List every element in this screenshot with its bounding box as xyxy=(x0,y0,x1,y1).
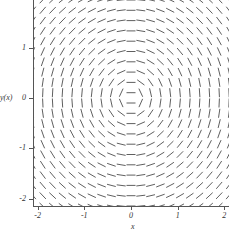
field-segment xyxy=(146,153,154,156)
field-segment xyxy=(49,182,55,188)
field-segment xyxy=(227,140,229,148)
field-segment xyxy=(69,193,76,198)
field-segment xyxy=(78,18,85,23)
x-tick-label: -1 xyxy=(75,211,93,220)
field-segment xyxy=(51,47,55,55)
field-segment xyxy=(216,0,222,3)
field-segment xyxy=(199,88,200,97)
field-segment xyxy=(41,37,45,45)
field-segment xyxy=(99,69,104,76)
field-segment xyxy=(88,8,96,12)
field-segment xyxy=(81,109,83,118)
field-segment xyxy=(177,28,184,34)
field-segment xyxy=(117,50,126,52)
field-segment xyxy=(108,131,116,136)
field-segment xyxy=(197,151,202,158)
field-segment xyxy=(217,140,221,148)
field-segment xyxy=(72,88,73,97)
field-segment xyxy=(208,58,211,66)
field-segment xyxy=(40,172,45,179)
field-segment xyxy=(197,27,203,34)
field-segment xyxy=(226,171,229,178)
field-segment xyxy=(60,48,65,56)
field-segment xyxy=(187,38,193,45)
field-segment xyxy=(88,152,95,158)
field-segment xyxy=(227,47,229,55)
field-segment xyxy=(219,109,220,118)
field-segment xyxy=(41,47,45,55)
field-segment xyxy=(98,152,106,157)
field-segment xyxy=(216,192,222,199)
field-segment xyxy=(61,58,65,66)
field-segment xyxy=(137,122,145,126)
field-segment xyxy=(90,78,93,87)
field-segment xyxy=(136,164,145,166)
field-segment xyxy=(107,19,116,22)
field-segment xyxy=(179,109,181,118)
field-segment xyxy=(51,58,54,66)
field-segment xyxy=(52,88,53,97)
field-segment xyxy=(156,194,165,197)
field-segment xyxy=(209,99,210,108)
field-segment xyxy=(156,19,164,23)
field-segment xyxy=(78,183,86,188)
field-segment xyxy=(137,111,144,116)
field-segment xyxy=(88,194,96,198)
field-segment xyxy=(198,130,202,138)
field-segment xyxy=(136,185,145,186)
field-segment xyxy=(146,19,155,22)
field-segment xyxy=(88,38,95,44)
field-segment xyxy=(100,109,104,117)
field-segment xyxy=(166,183,174,187)
field-segment xyxy=(41,58,44,66)
field-segment xyxy=(226,17,229,24)
field-segment xyxy=(62,78,64,87)
field-segment xyxy=(226,192,229,199)
field-segment xyxy=(98,29,106,33)
field-segment xyxy=(40,192,46,199)
field-segment xyxy=(88,0,96,2)
field-segment xyxy=(159,78,163,86)
field-segment xyxy=(147,69,154,75)
field-segment xyxy=(159,109,163,117)
field-segment xyxy=(176,172,183,177)
field-segment xyxy=(117,122,125,126)
field-segment xyxy=(216,17,221,24)
field-segment xyxy=(51,130,54,138)
field-segment xyxy=(198,68,201,77)
field-segment xyxy=(166,8,174,12)
field-segment xyxy=(136,174,145,175)
field-segment xyxy=(167,152,174,158)
field-segment xyxy=(217,37,221,45)
field-segment xyxy=(189,78,191,87)
field-segment xyxy=(147,131,155,136)
field-segment xyxy=(69,183,76,189)
field-segment xyxy=(216,7,222,14)
field-segment xyxy=(197,38,202,45)
field-segment xyxy=(71,119,74,127)
field-segment xyxy=(136,0,145,1)
field-segment xyxy=(150,99,152,108)
field-segment xyxy=(176,183,184,188)
field-segment xyxy=(78,0,86,2)
field-segment xyxy=(109,79,114,86)
field-segment xyxy=(166,0,174,2)
field-segment xyxy=(79,162,86,168)
field-segment xyxy=(166,173,174,178)
field-segment xyxy=(136,30,145,32)
field-segment xyxy=(196,7,203,13)
field-segment xyxy=(217,151,221,159)
field-segment xyxy=(51,119,53,128)
field-segment xyxy=(98,163,106,167)
field-segment xyxy=(98,59,105,65)
field-segment xyxy=(136,50,145,52)
field-segment xyxy=(218,130,221,139)
field-segment xyxy=(227,27,229,35)
field-segment xyxy=(62,109,64,118)
field-segment xyxy=(59,17,65,23)
field-segment xyxy=(186,0,193,3)
field-segment xyxy=(218,68,220,77)
field-segment xyxy=(186,193,193,198)
field-segment xyxy=(107,9,116,11)
field-segment xyxy=(228,78,229,87)
